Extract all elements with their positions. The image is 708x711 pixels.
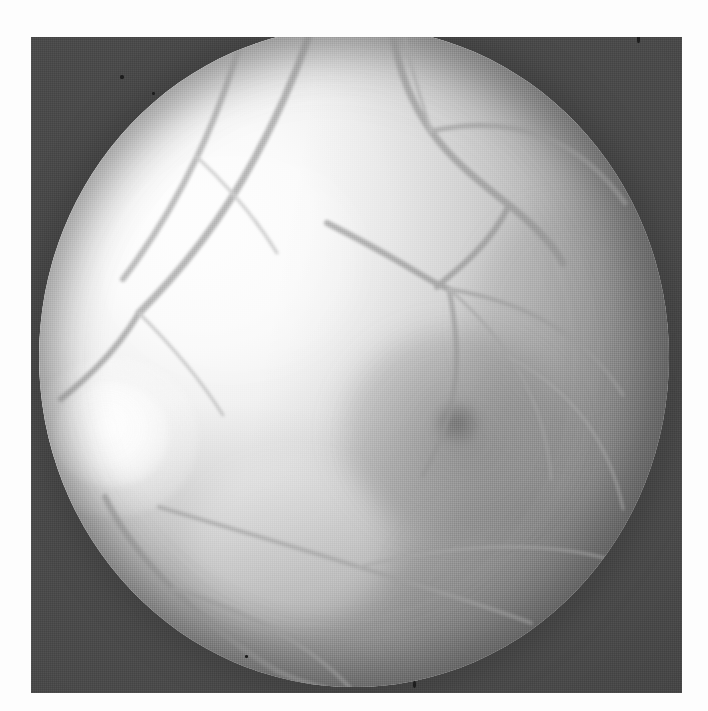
vessel [423, 289, 457, 475]
fundus-field-of-view [39, 37, 669, 687]
emulsion-speck [120, 75, 124, 79]
photograph-print [31, 37, 682, 693]
emulsion-speck [245, 655, 248, 658]
vessel [449, 289, 623, 395]
vessel [509, 357, 623, 509]
vessel [123, 37, 247, 279]
emulsion-speck [637, 37, 640, 43]
vessel [359, 547, 627, 567]
vessel [327, 223, 449, 289]
emulsion-speck [152, 92, 155, 95]
retinal-photograph-page [0, 0, 708, 711]
vessel [61, 313, 139, 399]
vessel [391, 37, 563, 263]
vessel [139, 313, 223, 415]
vessel [197, 157, 277, 253]
vessel [105, 497, 277, 671]
vessel [173, 589, 353, 687]
vessel [159, 507, 531, 623]
emulsion-speck [413, 681, 416, 688]
retinal-vessel-tree [39, 37, 669, 687]
vessel [437, 205, 509, 287]
